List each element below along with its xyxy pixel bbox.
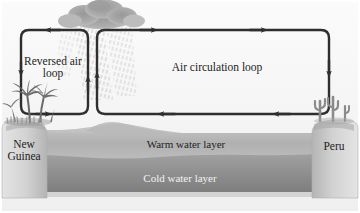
ocean-basin [22, 122, 340, 197]
cactus-ground-shadow [314, 118, 354, 125]
peru-landmass [312, 120, 358, 198]
diagram-canvas [0, 0, 360, 213]
diagram-figure: Reversed air loop Air circulation loop N… [0, 0, 360, 213]
new-guinea-landmass [2, 121, 47, 198]
